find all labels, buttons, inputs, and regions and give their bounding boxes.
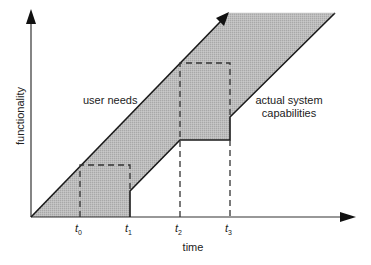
- x-axis-arrow-icon: [340, 212, 356, 222]
- y-axis-label: functionality: [14, 86, 26, 145]
- y-axis-arrow-icon: [26, 9, 36, 24]
- actual-system-label-line1: actual system: [255, 94, 322, 106]
- tick-label-t2: t2: [175, 222, 182, 236]
- tick-label-t1: t1: [125, 222, 132, 236]
- user-needs-label: user needs: [83, 94, 138, 106]
- functionality-vs-time-diagram: functionality time t0 t1 t2 t3 user need…: [0, 0, 371, 265]
- tick-label-t3: t3: [225, 222, 232, 236]
- x-axis-label: time: [183, 241, 204, 253]
- actual-system-label-line2: capabilities: [262, 107, 317, 119]
- tick-label-t0: t0: [75, 222, 82, 236]
